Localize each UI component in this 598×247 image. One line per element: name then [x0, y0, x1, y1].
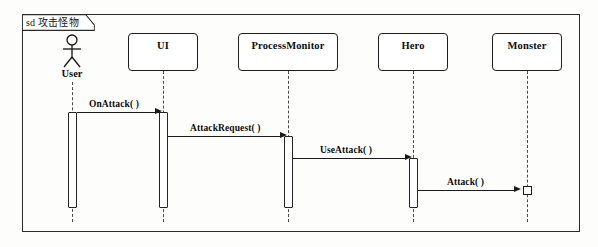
message-label-attackrequest: AttackRequest( )	[190, 123, 260, 133]
message-line-useattack	[293, 158, 406, 159]
message-label-attack: Attack( )	[447, 177, 484, 187]
participant-user[interactable]: User	[52, 34, 92, 82]
message-arrowhead-onattack	[155, 108, 162, 114]
message-label-onattack: OnAttack( )	[89, 99, 139, 109]
participant-monster[interactable]: Monster	[492, 33, 562, 71]
activation-user	[68, 112, 77, 208]
lifeline-monster	[527, 71, 528, 222]
frame-label: sd 攻击怪物	[26, 14, 95, 31]
participant-monster-label: Monster	[508, 34, 547, 52]
frame-name-tab: sd 攻击怪物	[22, 14, 95, 31]
message-line-attack	[418, 190, 515, 191]
activation-processmonitor	[284, 136, 293, 208]
participant-processmonitor-label: ProcessMonitor	[251, 34, 324, 52]
participant-processmonitor[interactable]: ProcessMonitor	[238, 33, 338, 71]
participant-hero-label: Hero	[401, 34, 424, 52]
participant-user-label: User	[62, 68, 83, 79]
participant-ui[interactable]: UI	[128, 33, 198, 71]
activation-hero	[409, 158, 418, 208]
sequence-diagram-canvas: sd 攻击怪物 User UI ProcessMonitor Hero Mons…	[0, 0, 598, 247]
message-line-attackrequest	[168, 136, 281, 137]
monster-activation-endpoint	[523, 186, 532, 195]
participant-hero[interactable]: Hero	[378, 33, 448, 71]
activation-ui	[159, 112, 168, 208]
message-arrowhead-attack	[514, 186, 521, 192]
participant-ui-label: UI	[157, 34, 169, 52]
message-arrowhead-useattack	[405, 154, 412, 160]
message-line-onattack	[77, 112, 160, 113]
message-label-useattack: UseAttack( )	[320, 145, 372, 155]
message-arrowhead-attackrequest	[280, 132, 287, 138]
actor-stick-figure-icon	[52, 34, 92, 68]
